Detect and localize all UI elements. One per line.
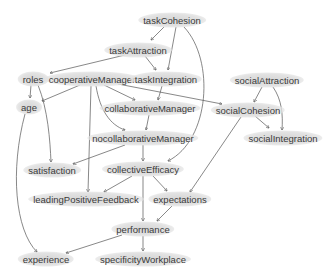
node-performance: performance	[111, 222, 174, 237]
node-nocollaborativeManager: nocollaborativeManager	[87, 131, 198, 146]
edge-cooperativeManager-to-age	[42, 85, 80, 101]
edge-performance-to-experience	[66, 235, 122, 253]
edge-age-to-experience	[16, 114, 37, 252]
node-collectiveEfficacy: collectiveEfficacy	[102, 162, 184, 177]
edge-taskAttraction-to-taskIntegration	[145, 56, 156, 70]
edge-collectiveEfficacy-to-expectations	[153, 176, 167, 191]
node-collaborativeManager: collaborativeManager	[100, 101, 201, 116]
edge-collaborativeManager-to-nocollaborativeManager	[146, 115, 149, 130]
node-specificityWorkplace: specificityWorkplace	[95, 252, 191, 267]
node-age: age	[16, 100, 42, 115]
node-experience: experience	[18, 252, 74, 267]
edge-socialCohesion-to-expectations	[190, 117, 241, 192]
node-taskIntegration: taskIntegration	[130, 72, 202, 87]
node-socialCohesion: socialCohesion	[211, 103, 285, 118]
edge-nocollaborativeManager-to-satisfaction	[73, 145, 125, 164]
edge-roles-to-age	[30, 85, 31, 98]
node-socialIntegration: socialIntegration	[243, 131, 322, 146]
edge-taskAttraction-to-roles	[50, 55, 125, 73]
node-leadingPositiveFeedback: leadingPositiveFeedback	[28, 192, 144, 207]
edge-socialCohesion-to-socialIntegration	[255, 116, 269, 128]
node-socialAttraction: socialAttraction	[230, 73, 304, 88]
node-taskAttraction: taskAttraction	[104, 43, 172, 58]
edge-taskCohesion-to-taskAttraction	[151, 27, 164, 40]
node-cooperativeManager: cooperativeManager	[44, 72, 141, 87]
edge-expectations-to-performance	[157, 206, 172, 221]
edge-socialAttraction-to-socialCohesion	[254, 87, 262, 102]
node-taskCohesion: taskCohesion	[138, 13, 206, 28]
node-satisfaction: satisfaction	[23, 163, 81, 178]
edge-taskIntegration-to-collaborativeManager	[158, 86, 162, 100]
edge-cooperativeManager-to-collaborativeManager	[104, 85, 135, 100]
node-expectations: expectations	[148, 192, 211, 207]
edge-roles-to-satisfaction	[38, 85, 51, 162]
diagram-canvas: taskCohesiontaskAttractionrolescooperati…	[0, 0, 331, 279]
edge-collectiveEfficacy-to-leadingPositiveFeedback	[104, 176, 132, 192]
